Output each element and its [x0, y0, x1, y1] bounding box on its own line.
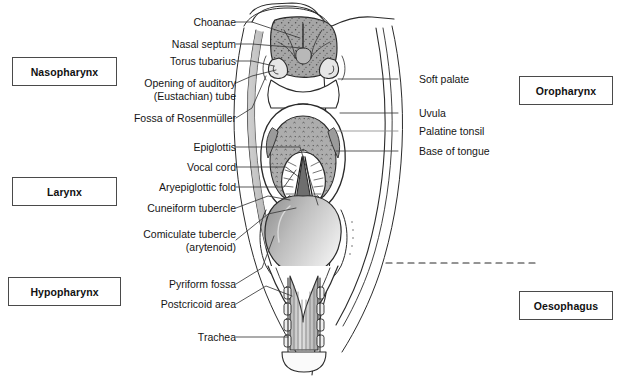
label-text: Vocal cord — [187, 161, 236, 173]
diagram-page: Nasopharynx Larynx Hypopharynx Oropharyn… — [0, 0, 617, 382]
label-text: Base of tongue — [419, 145, 490, 157]
region-box-label: Oropharynx — [536, 85, 597, 97]
label-opening-of-auditory-tube: Opening of auditory (Eustachian) tube — [144, 77, 236, 103]
label-text: Torus tubarius — [170, 55, 236, 67]
region-box-label: Hypopharynx — [30, 286, 98, 298]
fossa-of-rosenmuller-right — [342, 56, 345, 80]
trachea-base-ring — [282, 352, 326, 372]
label-text: Fossa of Rosenmüller — [134, 112, 236, 124]
region-box-nasopharynx[interactable]: Nasopharynx — [12, 57, 117, 86]
label-cuneiform-tubercle: Cuneiform tubercle — [147, 202, 236, 215]
label-trachea: Trachea — [198, 331, 236, 344]
label-base-of-tongue: Base of tongue — [419, 145, 490, 158]
label-text: Trachea — [198, 331, 236, 343]
label-palatine-tonsil: Palatine tonsil — [419, 125, 484, 138]
label-corniculate-tubercle: Comiculate tubercle (arytenoid) — [143, 228, 236, 254]
label-text: Pyriform fossa — [169, 278, 236, 290]
label-postcricoid-area: Postcricoid area — [161, 298, 236, 311]
nasal-septum-base — [296, 48, 311, 64]
label-text: Postcricoid area — [161, 298, 236, 310]
label-aryepiglottic-fold: Aryepiglottic fold — [159, 181, 236, 194]
epiglottis — [265, 196, 341, 274]
label-pyriform-fossa: Pyriform fossa — [169, 278, 236, 291]
label-text: Epiglottis — [193, 141, 236, 153]
label-epiglottis: Epiglottis — [193, 141, 236, 154]
label-torus-tubarius: Torus tubarius — [170, 55, 236, 68]
label-text: Uvula — [419, 107, 446, 119]
label-text-line1: Opening of auditory — [144, 77, 236, 89]
illustration-body — [234, 3, 535, 375]
region-box-label: Oesophagus — [534, 300, 599, 312]
label-nasal-septum: Nasal septum — [172, 38, 236, 51]
region-box-hypopharynx[interactable]: Hypopharynx — [8, 277, 121, 306]
region-box-oropharynx[interactable]: Oropharynx — [519, 76, 613, 105]
label-text: Palatine tonsil — [419, 125, 484, 137]
label-text: Cuneiform tubercle — [147, 202, 236, 214]
label-text-line2: (Eustachian) tube — [144, 90, 236, 103]
region-box-label: Larynx — [47, 186, 82, 198]
label-text: Choanae — [193, 16, 236, 28]
label-vocal-cord: Vocal cord — [187, 161, 236, 174]
right-lateral-wall-inner — [343, 28, 392, 326]
region-box-larynx[interactable]: Larynx — [12, 177, 117, 206]
outer-soft-tissue-right — [342, 26, 403, 352]
pyriform-fossa-right-stipple — [349, 221, 353, 254]
region-box-label: Nasopharynx — [31, 66, 99, 78]
label-text-line1: Comiculate tubercle — [143, 228, 236, 240]
label-text: Nasal septum — [172, 38, 236, 50]
label-text: Aryepiglottic fold — [159, 181, 236, 193]
label-text: Soft palate — [419, 73, 469, 85]
label-fossa-of-rosenmuller: Fossa of Rosenmüller — [134, 112, 236, 125]
label-soft-palate: Soft palate — [419, 73, 469, 86]
label-choanae: Choanae — [193, 16, 236, 29]
label-text-line2: (arytenoid) — [143, 241, 236, 254]
label-uvula: Uvula — [419, 107, 446, 120]
region-box-oesophagus[interactable]: Oesophagus — [519, 291, 613, 320]
